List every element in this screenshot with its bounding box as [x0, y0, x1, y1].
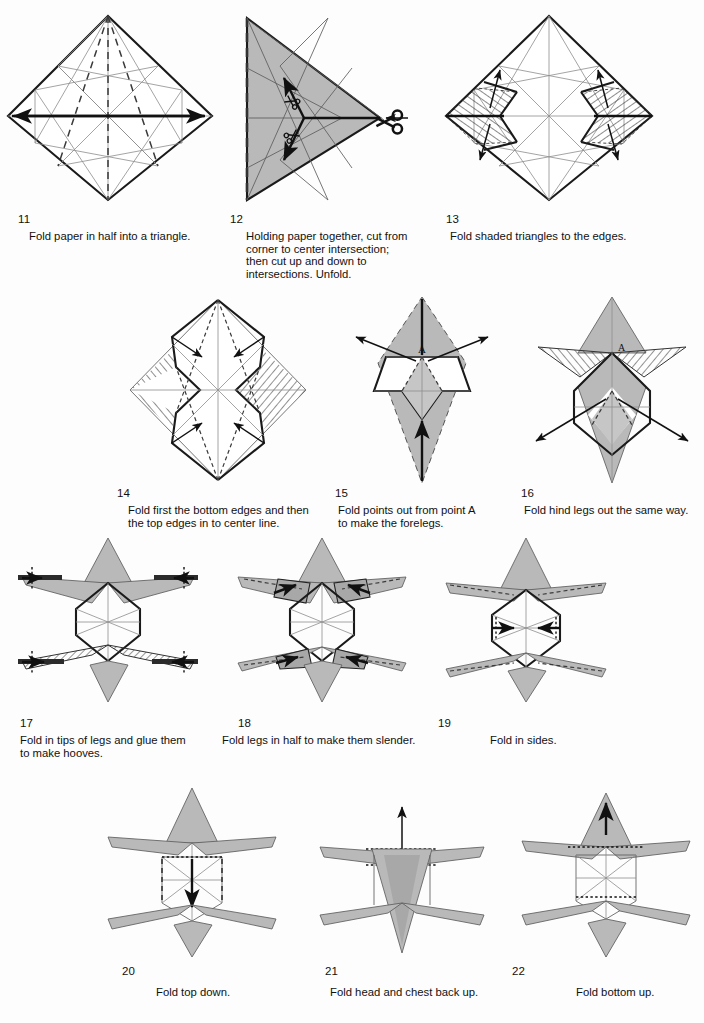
step-12: 12 Holding paper together, cut from corn…	[232, 8, 412, 208]
step-14-caption: Fold first the bottom edges and then the…	[128, 504, 358, 529]
step-22: 22 Fold bottom up.	[512, 785, 702, 960]
figure-17	[8, 535, 218, 705]
step-18: 18 Fold legs in half to make them slende…	[222, 535, 422, 705]
figure-11	[0, 8, 230, 208]
step-19-caption: Fold in sides.	[490, 734, 670, 747]
instruction-sheet: 11 Fold paper in half into a triangle.	[0, 0, 704, 1023]
step-18-number: 18	[238, 717, 251, 729]
scissors-icon	[372, 108, 406, 140]
step-20: 20 Fold top down.	[100, 785, 310, 960]
step-18-caption: Fold legs in half to make them slender.	[222, 734, 442, 747]
figure-15: A	[330, 295, 515, 485]
step-15-number: 15	[335, 487, 348, 499]
step-19-number: 19	[438, 717, 451, 729]
step-22-number: 22	[512, 965, 525, 977]
figure-18	[222, 535, 422, 705]
step-21: 21 Fold head and chest back up.	[310, 785, 510, 960]
step-11-number: 11	[18, 213, 30, 225]
figure-16: A	[520, 295, 704, 485]
step-11: 11 Fold paper in half into a triangle.	[0, 8, 230, 208]
figure-21	[310, 785, 510, 960]
figure-14	[110, 295, 330, 485]
step-11-caption: Fold paper in half into a triangle.	[29, 230, 239, 243]
figure-13	[424, 8, 674, 208]
step-15-caption: Fold points out from point A to make the…	[338, 504, 518, 529]
step-16: A 16 Fold hind legs out the same way.	[520, 295, 704, 485]
step-12-number: 12	[230, 213, 243, 225]
step-15: A 15 Fold points out from point A to mak…	[330, 295, 515, 485]
step-17: 17 Fold in tips of legs and glue them to…	[8, 535, 218, 705]
step-17-number: 17	[20, 717, 33, 729]
step-13: 13 Fold shaded triangles to the edges.	[424, 8, 674, 208]
figure-19	[434, 535, 644, 705]
figure-20	[100, 785, 310, 960]
step-12-caption: Holding paper together, cut from corner …	[246, 230, 436, 280]
step-13-caption: Fold shaded triangles to the edges.	[450, 230, 680, 243]
step-21-number: 21	[325, 965, 338, 977]
step-22-caption: Fold bottom up.	[576, 986, 704, 999]
step-16-caption: Fold hind legs out the same way.	[524, 504, 704, 517]
step-19: 19 Fold in sides.	[434, 535, 644, 705]
step-20-number: 20	[122, 965, 135, 977]
step-20-caption: Fold top down.	[156, 986, 336, 999]
step-13-number: 13	[446, 213, 459, 225]
step-16-number: 16	[521, 487, 534, 499]
step-17-caption: Fold in tips of legs and glue them to ma…	[20, 734, 220, 759]
step-21-caption: Fold head and chest back up.	[330, 986, 550, 999]
step-14: 14 Fold first the bottom edges and then …	[110, 295, 330, 485]
figure-22	[512, 785, 702, 960]
point-a-label: A	[618, 342, 626, 353]
step-14-number: 14	[117, 487, 130, 499]
